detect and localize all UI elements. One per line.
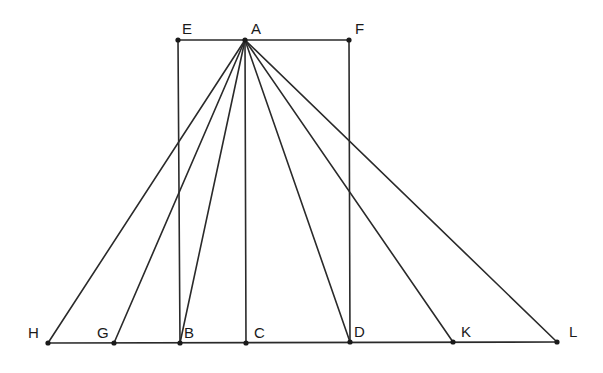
point-G — [111, 340, 116, 345]
point-label-D: D — [354, 323, 365, 340]
points-group — [45, 37, 559, 345]
point-label-B: B — [184, 324, 194, 341]
segment-AD — [245, 40, 350, 342]
point-label-G: G — [97, 324, 109, 341]
segments-group — [48, 40, 557, 343]
segment-HL — [48, 342, 557, 343]
point-label-C: C — [254, 324, 265, 341]
labels-group: AEFHGBCDKL — [28, 20, 577, 341]
point-C — [243, 340, 248, 345]
point-E — [175, 37, 180, 42]
point-A — [242, 37, 247, 42]
point-H — [45, 340, 50, 345]
geometry-diagram: AEFHGBCDKL — [0, 0, 603, 373]
point-L — [554, 339, 559, 344]
point-label-F: F — [355, 20, 364, 37]
segment-AH — [48, 40, 245, 343]
point-F — [346, 37, 351, 42]
point-label-K: K — [461, 323, 471, 340]
point-B — [177, 340, 182, 345]
point-label-L: L — [569, 323, 577, 340]
segment-AB — [180, 40, 245, 343]
point-D — [347, 339, 352, 344]
segment-AC — [245, 40, 246, 343]
point-label-E: E — [182, 20, 192, 37]
segment-AL — [245, 40, 557, 342]
point-label-H: H — [28, 324, 39, 341]
point-K — [450, 339, 455, 344]
point-label-A: A — [251, 20, 261, 37]
